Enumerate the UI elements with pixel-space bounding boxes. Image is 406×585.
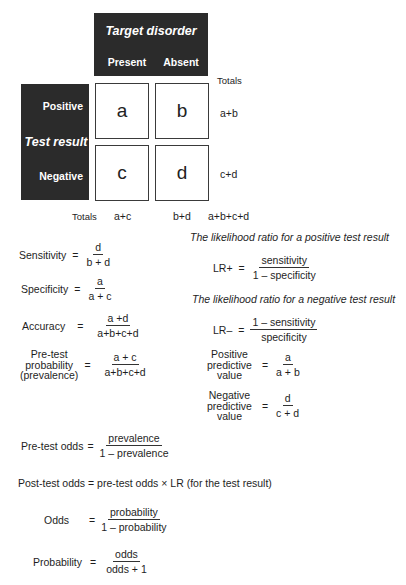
numerator: a + c: [112, 351, 139, 365]
formula-lr-positive: LR+ = sensitivity 1 – specificity: [213, 254, 318, 281]
formula-label: LR+: [213, 262, 233, 274]
row-negative-label: Negative: [39, 170, 83, 182]
column-absent-label: Absent: [156, 56, 206, 68]
formula-label: Negative predictive value: [207, 390, 252, 422]
fraction: d b + d: [84, 241, 112, 268]
numerator: prevalence: [106, 432, 161, 446]
equals-sign: =: [87, 440, 93, 452]
formula-label: Positive predictive value: [207, 349, 252, 381]
test-result-header: Positive Test result Negative: [21, 84, 89, 200]
formula-positive-predictive-value: Positive predictive value = a a + b: [207, 349, 302, 381]
formula-label: Probability: [33, 556, 82, 568]
equals-sign: =: [238, 324, 244, 336]
equals-sign: =: [262, 359, 268, 371]
denominator: odds + 1: [104, 562, 149, 575]
numerator: probability: [108, 506, 160, 520]
row-total-positive: a+b: [220, 107, 238, 119]
test-result-title: Test result: [23, 135, 89, 149]
formula-lr-negative: LR– = 1 – sensitivity specificity: [213, 316, 317, 343]
formula-accuracy: Accuracy = a +d a+b+c+d: [22, 312, 141, 339]
cell-b: b: [155, 83, 209, 139]
denominator: 1 – probability: [99, 520, 168, 533]
totals-label-right: Totals: [217, 75, 242, 86]
equals-sign: =: [239, 262, 245, 274]
grand-total: a+b+c+d: [208, 210, 249, 222]
equals-sign: =: [74, 283, 80, 295]
totals-label-bottom: Totals: [72, 211, 97, 222]
column-total-absent: b+d: [173, 210, 191, 222]
denominator: a + c: [86, 289, 113, 302]
fraction: probability 1 – probability: [99, 506, 168, 533]
numerator: a +d: [106, 312, 131, 326]
fraction: sensitivity 1 – specificity: [251, 254, 318, 281]
formula-label: Specificity: [21, 283, 68, 295]
numerator: d: [283, 392, 293, 406]
column-present-label: Present: [102, 56, 152, 68]
denominator: 1 – specificity: [251, 268, 318, 281]
cell-c: c: [95, 145, 149, 201]
equals-sign: =: [90, 556, 96, 568]
equals-sign: =: [84, 359, 90, 371]
cell-a: a: [95, 83, 149, 139]
formula-sensitivity: Sensitivity = d b + d: [19, 241, 112, 268]
equals-sign: =: [72, 249, 78, 261]
denominator: 1 – prevalence: [98, 446, 171, 459]
formula-label: Accuracy: [22, 320, 65, 332]
fraction: prevalence 1 – prevalence: [98, 432, 171, 459]
denominator: a+b+c+d: [103, 365, 148, 378]
fraction: a a + b: [274, 351, 302, 378]
fraction: d c + d: [274, 392, 301, 419]
denominator: specificity: [259, 330, 309, 343]
formula-specificity: Specificity = a a + c: [21, 275, 113, 302]
target-disorder-header: Target disorder Present Absent: [94, 13, 208, 76]
numerator: a: [95, 275, 105, 289]
lr-negative-caption: The likelihood ratio for a negative test…: [192, 293, 395, 305]
column-total-present: a+c: [114, 210, 131, 222]
equals-sign: =: [77, 320, 83, 332]
formula-label: Pre-test probability (prevalence): [20, 349, 78, 381]
equals-sign: =: [89, 514, 95, 526]
fraction: 1 – sensitivity specificity: [250, 316, 317, 343]
equals-sign: =: [262, 400, 268, 412]
formula-label: Sensitivity: [19, 249, 66, 261]
numerator: sensitivity: [259, 254, 309, 268]
formula-label: LR–: [213, 324, 232, 336]
numerator: odds: [113, 548, 140, 562]
row-total-negative: c+d: [220, 168, 237, 180]
formula-negative-predictive-value: Negative predictive value = d c + d: [207, 390, 301, 422]
formula-probability: Probability = odds odds + 1: [33, 548, 149, 575]
fraction: a a + c: [86, 275, 113, 302]
denominator: a+b+c+d: [95, 326, 140, 339]
denominator: c + d: [274, 406, 301, 419]
fraction: a + c a+b+c+d: [103, 351, 148, 378]
target-disorder-title: Target disorder: [94, 24, 208, 38]
numerator: a: [283, 351, 293, 365]
formula-posttest-odds: Post-test odds = pre-test odds × LR (for…: [18, 477, 272, 489]
formula-label: Pre-test odds: [21, 440, 83, 452]
fraction: odds odds + 1: [104, 548, 149, 575]
lr-positive-caption: The likelihood ratio for a positive test…: [190, 231, 389, 243]
row-positive-label: Positive: [43, 100, 83, 112]
denominator: b + d: [84, 255, 112, 268]
formula-odds: Odds = probability 1 – probability: [44, 506, 169, 533]
numerator: 1 – sensitivity: [250, 316, 317, 330]
fraction: a +d a+b+c+d: [95, 312, 140, 339]
denominator: a + b: [274, 365, 302, 378]
formula-pretest-odds: Pre-test odds = prevalence 1 – prevalenc…: [21, 432, 170, 459]
formula-label: Odds: [44, 514, 69, 526]
cell-d: d: [155, 145, 209, 201]
numerator: d: [93, 241, 103, 255]
formula-pretest-probability: Pre-test probability (prevalence) = a + …: [20, 349, 148, 381]
